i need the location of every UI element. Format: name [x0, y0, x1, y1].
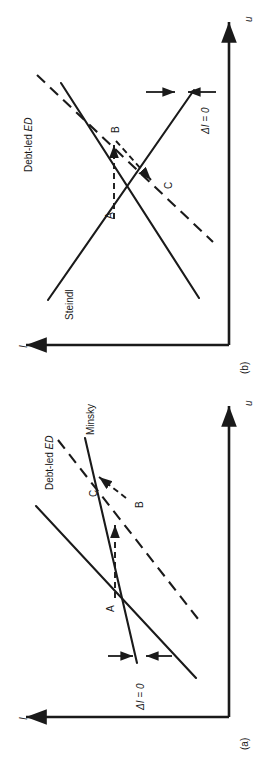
- axis-label-u: u: [243, 16, 254, 22]
- panel-tag-b: (b): [239, 362, 250, 374]
- label-debt-led-ed: Debt-led ED: [23, 118, 34, 172]
- label-steindl: Steindl: [64, 289, 75, 320]
- label-debt-led-text: Debt-led: [23, 131, 34, 172]
- axis-label-u: u: [243, 400, 254, 406]
- label-delta-i-zero: ΔI = 0: [135, 684, 146, 710]
- label-minsky: Minsky: [85, 404, 96, 435]
- curve-steindl: [48, 90, 194, 300]
- panel-a-axes: [26, 406, 229, 717]
- curve-delta-i-zero: [61, 83, 199, 298]
- panel-b: Steindl Debt-led ED ΔI = 0 A B C I u (b): [0, 0, 259, 379]
- curve-debt-led-ed: [58, 440, 202, 624]
- label-delta-i-zero: ΔI = 0: [200, 108, 211, 134]
- point-label-c: C: [163, 182, 174, 189]
- panel-a: Minsky Debt-led ED ΔI = 0 A B C I u (a): [0, 380, 259, 759]
- axis-label-i: I: [18, 345, 29, 348]
- point-label-a: A: [105, 605, 116, 612]
- curve-minsky: [85, 438, 137, 663]
- point-label-a: A: [104, 212, 115, 219]
- panel-b-svg: [0, 0, 259, 379]
- label-debt-led-text: Debt-led: [44, 449, 55, 490]
- panel-b-canvas: [0, 0, 259, 379]
- panel-a-canvas: [0, 380, 259, 759]
- axis-label-i: I: [18, 717, 29, 720]
- panel-a-svg: [0, 380, 259, 759]
- point-label-b: B: [110, 126, 121, 133]
- point-label-b: B: [134, 501, 145, 508]
- path-b-to-c: [99, 477, 126, 498]
- panel-tag-a: (a): [239, 738, 250, 750]
- point-label-c: C: [88, 490, 99, 497]
- label-debt-led-ed: Debt-led ED: [44, 436, 55, 490]
- figure-root: Steindl Debt-led ED ΔI = 0 A B C I u (b): [0, 0, 259, 759]
- label-ed-italic: ED: [23, 118, 34, 132]
- label-ed-italic: ED: [44, 436, 55, 450]
- curve-delta-i-zero: [36, 506, 196, 678]
